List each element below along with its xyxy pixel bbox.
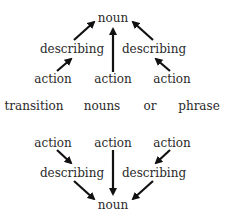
top-noun: noun bbox=[98, 11, 128, 25]
arrow-describing-right-to-noun bbox=[133, 22, 153, 40]
top-action-left: action bbox=[34, 72, 72, 86]
bottom-describing-right: describing bbox=[122, 166, 186, 180]
top-action-right: action bbox=[153, 72, 191, 86]
bottom-action-left: action bbox=[34, 136, 72, 150]
bottom-describing-left: describing bbox=[40, 166, 104, 180]
bottom-noun: noun bbox=[98, 198, 128, 212]
arrow-action-right-to-describing-b bbox=[156, 150, 170, 163]
arrow-action-right-to-describing bbox=[156, 59, 170, 71]
arrow-describing-left-to-noun bbox=[74, 22, 94, 40]
word-phrase: phrase bbox=[178, 99, 220, 113]
arrow-describing-right-to-noun-b bbox=[133, 181, 153, 199]
word-or: or bbox=[144, 99, 157, 113]
word-nouns: nouns bbox=[84, 99, 121, 113]
bottom-action-right: action bbox=[153, 136, 191, 150]
bottom-action-middle: action bbox=[94, 136, 132, 150]
arrow-describing-left-to-noun-b bbox=[74, 181, 94, 199]
arrow-action-left-to-describing bbox=[57, 59, 71, 71]
top-describing-left: describing bbox=[40, 42, 104, 56]
top-describing-right: describing bbox=[122, 42, 186, 56]
top-action-middle: action bbox=[94, 72, 132, 86]
arrow-action-left-to-describing-b bbox=[57, 150, 71, 163]
word-transition: transition bbox=[4, 99, 63, 113]
